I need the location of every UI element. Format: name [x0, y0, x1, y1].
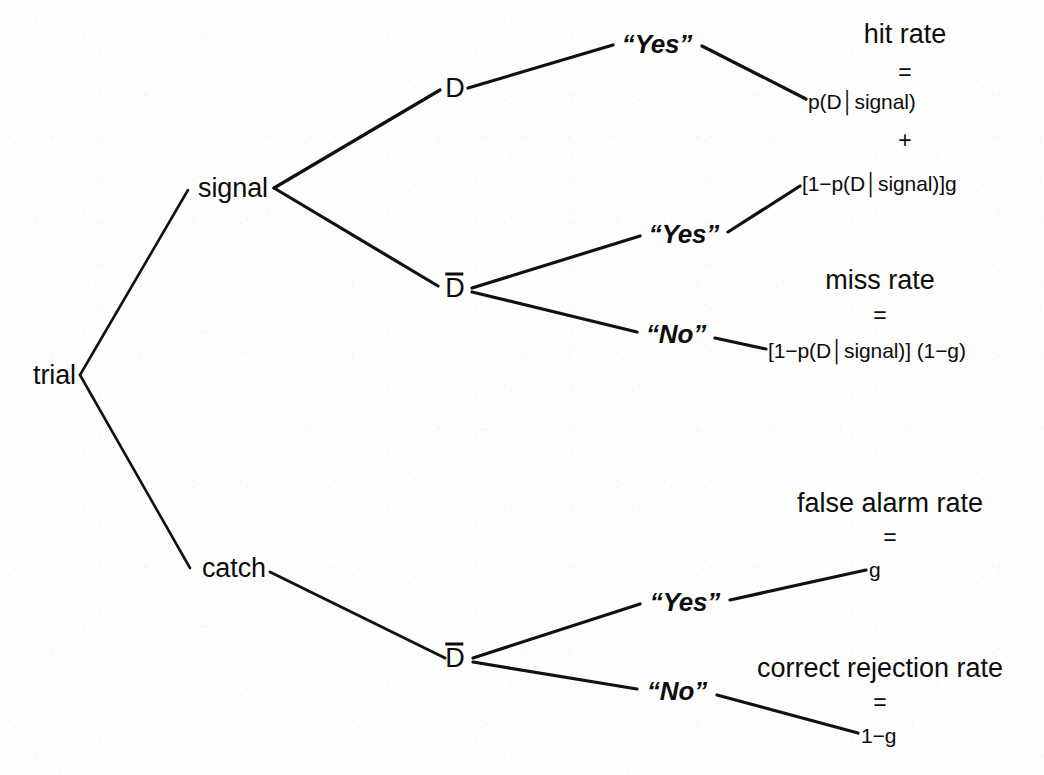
node-not-detect-signal: D	[445, 275, 464, 302]
outcome-correct-rejection-equals: =	[873, 691, 886, 714]
outcome-false-alarm-label: false alarm rate	[797, 490, 983, 517]
edge-notdetect-yes	[472, 236, 640, 288]
outcome-hit-rate-label: hit rate	[864, 21, 947, 48]
d-bar-glyph: D	[445, 645, 464, 672]
outcome-hit-rate-equals: =	[898, 61, 911, 84]
outcome-miss-rate-equals: =	[873, 304, 886, 327]
node-trial: trial	[33, 362, 76, 389]
edge-trial-catch	[80, 375, 190, 568]
edge-yes-guess-term	[728, 186, 800, 232]
outcome-hit-rate-plus: +	[898, 129, 911, 152]
edge-trial-signal	[80, 190, 188, 375]
edge-notdetect-no	[472, 292, 637, 332]
response-no-catch: “No”	[647, 678, 707, 704]
edge-detect-yes	[468, 45, 613, 88]
outcome-correct-rejection-label: correct rejection rate	[757, 655, 1003, 682]
response-yes-detect: “Yes”	[622, 31, 692, 57]
outcome-hit-rate-term2: [1−p(D│signal)]g	[802, 173, 957, 194]
outcome-hit-rate-term1: p(D│signal)	[808, 91, 916, 112]
edge-yes-falsealarm	[730, 570, 866, 600]
response-yes-catch: “Yes”	[650, 589, 720, 615]
edge-signal-notdetect	[274, 188, 438, 286]
response-no-notdetect-signal: “No”	[646, 321, 706, 347]
node-signal: signal	[198, 175, 268, 202]
edge-catch-notdetect	[270, 572, 445, 658]
overbar-icon	[445, 273, 463, 276]
outcome-false-alarm-equals: =	[883, 526, 896, 549]
edge-signal-detect	[274, 90, 440, 188]
edge-yes-hitrate	[702, 46, 806, 99]
node-not-detect-catch: D	[445, 645, 464, 672]
node-detect: D	[445, 75, 464, 102]
node-catch: catch	[202, 555, 266, 582]
edge-catch-no	[473, 662, 637, 689]
outcome-false-alarm-term1: g	[869, 559, 881, 580]
d-bar-glyph: D	[445, 275, 464, 302]
d-letter: D	[445, 643, 464, 673]
outcome-correct-rejection-term1: 1−g	[861, 725, 896, 746]
figure-canvas: trial signal catch D D D “Yes” “Yes” “No…	[0, 0, 1044, 775]
outcome-miss-rate-term1: [1−p(D│signal)] (1−g)	[768, 340, 966, 361]
overbar-icon	[445, 643, 463, 646]
edge-no-missrate	[715, 338, 766, 349]
response-yes-notdetect-signal: “Yes”	[649, 221, 719, 247]
d-letter: D	[445, 273, 464, 303]
edge-catch-yes	[473, 604, 640, 658]
outcome-miss-rate-label: miss rate	[825, 267, 935, 294]
edge-no-correctreject	[717, 695, 858, 733]
